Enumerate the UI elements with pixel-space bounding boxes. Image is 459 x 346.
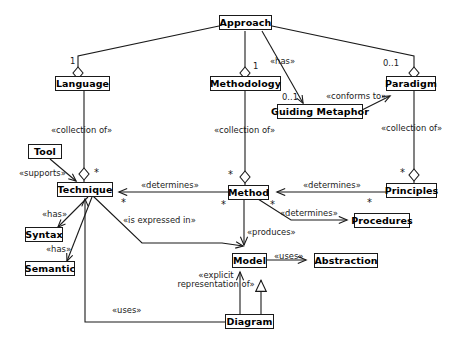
node-model-label: Model [233,256,266,266]
node-principles[interactable]: Principles [386,183,437,198]
node-methodology-label: Methodology [210,79,281,89]
node-method-label: Method [228,188,269,198]
node-approach-label: Approach [220,18,272,28]
node-syntax[interactable]: Syntax [25,227,63,242]
edge-label-is-expressed-in: «is expressed in» [123,216,196,225]
edge-label-determines-procedures: «determines» [280,209,338,218]
node-principles-label: Principles [385,186,439,196]
node-guiding-metaphor[interactable]: Guiding Metaphor [277,104,363,119]
node-tool[interactable]: Tool [28,144,62,159]
node-guiding-metaphor-label: Guiding Metaphor [271,107,369,117]
node-technique-label: Technique [58,185,113,195]
multiplicity-technique-right: * [121,198,126,208]
multiplicity-approach-metaphor: 0..1 [282,93,298,101]
node-procedures-label: Procedures [351,216,413,226]
node-tool-label: Tool [34,147,56,157]
node-method[interactable]: Method [228,185,269,200]
multiplicity-principles-top: * [400,168,405,178]
edge-label-collection-of-principles: «collection of» [381,124,442,133]
node-abstraction[interactable]: Abstraction [314,253,378,268]
edge-label-explicit-representation-of: «explicit representation of» [174,271,258,290]
node-procedures[interactable]: Procedures [354,213,410,228]
multiplicity-principles-left: * [367,198,372,208]
node-diagram[interactable]: Diagram [225,314,274,329]
node-model[interactable]: Model [232,253,267,268]
edge-label-determines-method: «determines» [303,181,361,190]
multiplicity-approach-paradigm: 0..1 [383,59,399,67]
edge-label-uses-abstraction: «uses» [274,252,303,261]
edge-label-collection-of-technique: «collection of» [51,126,112,135]
node-abstraction-label: Abstraction [314,256,377,266]
multiplicity-approach-language: 1 [70,57,75,65]
edge-label-supports: «supports» [19,169,66,178]
node-language-label: Language [56,79,109,89]
edge-label-has-syntax: «has» [42,210,67,219]
edge-label-produces: «produces» [247,228,296,237]
node-paradigm-label: Paradigm [385,79,437,89]
edge-label-has-semantic: «has» [46,245,71,254]
edge-label-determines-technique: «determines» [141,181,199,190]
edge-label-conforms-to: «conforms to» [326,92,386,101]
node-semantic[interactable]: Semantic [25,261,75,276]
multiplicity-technique-top: * [94,168,99,178]
node-paradigm[interactable]: Paradigm [386,76,436,91]
multiplicity-approach-methodology: 1 [253,62,258,70]
multiplicity-method-right: * [270,200,275,210]
node-language[interactable]: Language [55,76,110,91]
node-semantic-label: Semantic [25,264,76,274]
node-syntax-label: Syntax [25,230,62,240]
edge-label-has-metaphor: «has» [270,57,295,66]
node-methodology[interactable]: Methodology [210,76,281,91]
edge-label-collection-of-method: «collection of» [214,126,275,135]
multiplicity-method-top: * [228,170,233,180]
node-approach[interactable]: Approach [219,15,272,30]
multiplicity-method-left: * [221,200,226,210]
uml-diagram-canvas: Approach Language Methodology Paradigm G… [0,0,459,346]
node-diagram-label: Diagram [226,317,272,327]
node-technique[interactable]: Technique [57,182,113,197]
edge-label-uses-technique: «uses» [112,306,141,315]
